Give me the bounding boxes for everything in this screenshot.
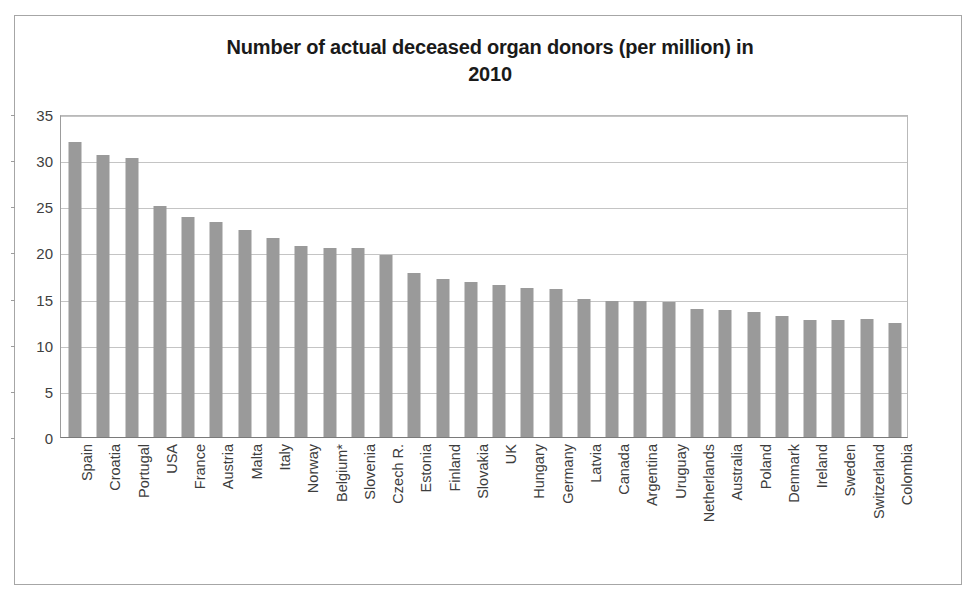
- x-axis-label-slot: Netherlands: [682, 440, 710, 580]
- bar[interactable]: [860, 319, 873, 437]
- bar[interactable]: [747, 312, 760, 437]
- y-axis-tick-mark: [11, 161, 15, 162]
- x-axis-label-slot: Sweden: [823, 440, 851, 580]
- y-axis-tick-label: 15: [19, 291, 53, 308]
- bar[interactable]: [464, 282, 477, 437]
- x-axis-label-slot: Belgium*: [314, 440, 342, 580]
- bar-slot: [683, 116, 711, 437]
- x-axis-label-slot: France: [173, 440, 201, 580]
- bar[interactable]: [634, 301, 647, 437]
- x-axis-label-slot: Czech R.: [371, 440, 399, 580]
- y-axis-tick-label: 25: [19, 199, 53, 216]
- bar-slot: [457, 116, 485, 437]
- bar[interactable]: [408, 273, 421, 437]
- x-axis-label-slot: Australia: [710, 440, 738, 580]
- y-axis-tick-mark: [11, 253, 15, 254]
- x-axis-label-slot: Slovenia: [343, 440, 371, 580]
- bar[interactable]: [266, 238, 279, 437]
- bar-slot: [231, 116, 259, 437]
- bar-slot: [881, 116, 909, 437]
- bar-slot: [61, 116, 89, 437]
- bar-slot: [287, 116, 315, 437]
- bar[interactable]: [662, 302, 675, 437]
- y-axis-tick-mark: [11, 346, 15, 347]
- bar-slot: [570, 116, 598, 437]
- bar[interactable]: [493, 285, 506, 437]
- bar[interactable]: [577, 299, 590, 437]
- bar[interactable]: [549, 289, 562, 437]
- bar-slot: [202, 116, 230, 437]
- bar[interactable]: [888, 323, 901, 437]
- bar-slot: [796, 116, 824, 437]
- bar[interactable]: [153, 206, 166, 437]
- x-axis-label-slot: Estonia: [399, 440, 427, 580]
- x-axis-label-slot: Latvia: [569, 440, 597, 580]
- bar-slot: [372, 116, 400, 437]
- x-axis-label-slot: Portugal: [117, 440, 145, 580]
- bar[interactable]: [436, 279, 449, 437]
- bar[interactable]: [832, 320, 845, 437]
- bar[interactable]: [210, 222, 223, 437]
- x-axis-label-slot: Malta: [230, 440, 258, 580]
- x-axis-label-slot: Austria: [201, 440, 229, 580]
- x-axis-label-slot: Italy: [258, 440, 286, 580]
- bar-slot: [655, 116, 683, 437]
- bar-slot: [485, 116, 513, 437]
- y-axis: 35302520151050: [15, 115, 53, 438]
- x-axis-label-slot: Canada: [597, 440, 625, 580]
- chart-container: Number of actual deceased organ donors (…: [14, 15, 962, 585]
- y-axis-tick-label: 20: [19, 245, 53, 262]
- bar[interactable]: [775, 316, 788, 437]
- bar-series: [61, 116, 907, 437]
- bar[interactable]: [125, 158, 138, 437]
- bar[interactable]: [380, 255, 393, 437]
- bar[interactable]: [295, 246, 308, 437]
- bar-slot: [852, 116, 880, 437]
- x-axis-label-slot: Norway: [286, 440, 314, 580]
- bar[interactable]: [719, 310, 732, 437]
- x-axis-label-slot: Denmark: [767, 440, 795, 580]
- bar-slot: [739, 116, 767, 437]
- bar[interactable]: [238, 230, 251, 437]
- bar-slot: [768, 116, 796, 437]
- y-axis-tick-label: 35: [19, 107, 53, 124]
- x-axis: SpainCroatiaPortugalUSAFranceAustriaMalt…: [60, 440, 908, 580]
- bar[interactable]: [97, 155, 110, 437]
- y-axis-tick-mark: [11, 115, 15, 116]
- bar-slot: [259, 116, 287, 437]
- x-axis-label-slot: Ireland: [795, 440, 823, 580]
- bar-slot: [598, 116, 626, 437]
- x-axis-label-slot: Finland: [427, 440, 455, 580]
- plot-area: [60, 115, 908, 438]
- bar-slot: [344, 116, 372, 437]
- bar[interactable]: [323, 248, 336, 437]
- bar-slot: [626, 116, 654, 437]
- y-axis-tick-label: 10: [19, 337, 53, 354]
- x-axis-label-slot: Argentina: [625, 440, 653, 580]
- bar-slot: [428, 116, 456, 437]
- bar[interactable]: [69, 142, 82, 437]
- bar-slot: [146, 116, 174, 437]
- bar[interactable]: [606, 301, 619, 437]
- x-axis-label-slot: Slovakia: [456, 440, 484, 580]
- bar[interactable]: [804, 320, 817, 437]
- bar-slot: [89, 116, 117, 437]
- bar[interactable]: [182, 217, 195, 437]
- x-axis-label-slot: Colombia: [880, 440, 908, 580]
- y-axis-tick-label: 5: [19, 383, 53, 400]
- bar[interactable]: [351, 248, 364, 437]
- bar-slot: [315, 116, 343, 437]
- x-axis-label-slot: Poland: [738, 440, 766, 580]
- x-axis-label-slot: UK: [484, 440, 512, 580]
- x-axis-label-slot: Hungary: [512, 440, 540, 580]
- bar-slot: [400, 116, 428, 437]
- x-axis-tick-label: Colombia: [899, 444, 915, 505]
- x-axis-label-slot: Germany: [541, 440, 569, 580]
- x-axis-label-slot: USA: [145, 440, 173, 580]
- bar[interactable]: [690, 309, 703, 437]
- bar[interactable]: [521, 288, 534, 437]
- x-axis-label-slot: Switzerland: [851, 440, 879, 580]
- bar-slot: [513, 116, 541, 437]
- x-axis-label-slot: Spain: [60, 440, 88, 580]
- y-axis-tick-label: 30: [19, 153, 53, 170]
